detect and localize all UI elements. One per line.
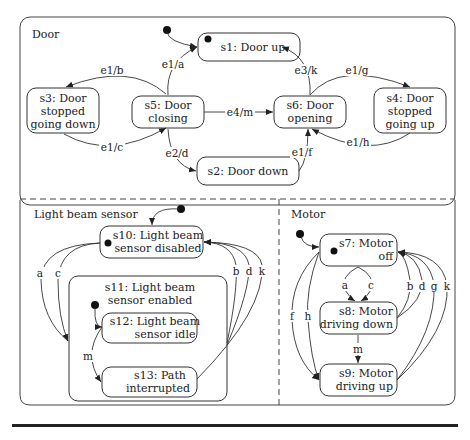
transition-label: c <box>368 279 374 291</box>
state-label: s13: Path <box>134 369 186 382</box>
state-s10: s10: Light beam sensor disabled <box>100 226 204 258</box>
transition-label: m <box>83 350 93 362</box>
edge-initial-to-s7 <box>301 237 319 247</box>
state-label: driving down <box>320 318 393 331</box>
transition-label: e3/k <box>295 64 318 76</box>
transition-label: m <box>353 343 363 355</box>
transition-label: b <box>407 280 414 292</box>
state-label: s7: Motor <box>339 237 394 250</box>
state-label: s2: Door down <box>208 165 289 178</box>
state-s7: s7: Motor off <box>320 234 397 266</box>
state-label: s1: Door up <box>221 41 286 54</box>
state-s2: s2: Door down <box>197 157 299 185</box>
state-s12: s12: Light beam sensor idle <box>102 313 201 343</box>
state-diagram: Door Light beam sensor Motor s1: Door up… <box>0 0 470 440</box>
state-label: off <box>379 250 395 263</box>
transition-label: k <box>259 265 266 277</box>
transition-label: b <box>233 265 240 277</box>
state-label: s4: Door <box>386 92 434 105</box>
initial-pseudostate-s11 <box>91 301 99 309</box>
transition-label: e1/a <box>162 58 185 70</box>
state-label: driving up <box>336 380 393 393</box>
state-label: sensor disabled <box>114 242 201 255</box>
transition-label: a <box>37 267 43 279</box>
transition-label: e1/f <box>292 146 313 158</box>
state-label: stopped <box>41 105 85 118</box>
state-label: stopped <box>388 105 432 118</box>
history-dot-icon <box>205 36 212 43</box>
history-dot-icon <box>105 240 112 247</box>
transition-label: e1/g <box>345 64 368 76</box>
region-title-light-beam-sensor: Light beam sensor <box>34 208 138 221</box>
state-s6: s6: Door opening <box>274 96 346 128</box>
region-title-door: Door <box>32 28 60 41</box>
edge-s9-to-s7-k <box>397 252 447 380</box>
transition-label: e4/m <box>227 106 253 118</box>
state-label: s8: Motor <box>339 305 394 318</box>
state-label: s9: Motor <box>339 367 394 380</box>
state-label: sensor idle <box>135 328 196 341</box>
transition-label: d <box>246 265 253 277</box>
state-label: s5: Door <box>144 99 192 112</box>
state-s4: s4: Door stopped going up <box>374 88 446 133</box>
history-dot-icon <box>331 248 338 255</box>
transition-label: e1/b <box>100 64 123 76</box>
edge-initial-to-s1 <box>167 32 197 47</box>
state-label: closing <box>148 112 188 125</box>
state-label: s10: Light beam <box>113 229 204 242</box>
initial-pseudostate-motor <box>296 230 304 238</box>
state-s3: s3: Door stopped going down <box>27 88 99 133</box>
state-label: s11: Light beam <box>105 281 196 294</box>
bottom-rule <box>12 424 458 427</box>
state-label: going up <box>386 118 435 131</box>
transition-label: g <box>431 280 438 292</box>
state-s13: s13: Path interrupted <box>102 367 197 397</box>
region-title-motor: Motor <box>291 208 326 221</box>
state-label: interrupted <box>126 382 190 395</box>
transition-label: e1/c <box>101 141 123 153</box>
state-s1: s1: Door up <box>198 33 300 61</box>
transition-label: h <box>305 310 312 322</box>
transition-label: a <box>342 279 348 291</box>
transition-label: e2/d <box>165 147 188 159</box>
state-label: s3: Door <box>39 92 87 105</box>
edge-s5-to-s1 <box>168 47 197 95</box>
state-label: s6: Door <box>286 99 334 112</box>
state-label: sensor enabled <box>108 294 193 307</box>
transition-label: k <box>444 280 451 292</box>
transition-label: d <box>419 280 426 292</box>
edge-initial-to-s10 <box>152 209 179 225</box>
transition-label: e1/h <box>346 136 369 148</box>
state-label: opening <box>288 112 333 125</box>
state-s9: s9: Motor driving up <box>320 364 397 396</box>
state-s8: s8: Motor driving down <box>320 302 397 334</box>
transition-label: c <box>55 267 61 279</box>
state-label: going down <box>31 118 96 131</box>
state-s5: s5: Door closing <box>132 96 204 128</box>
state-label: s12: Light beam <box>110 315 201 328</box>
